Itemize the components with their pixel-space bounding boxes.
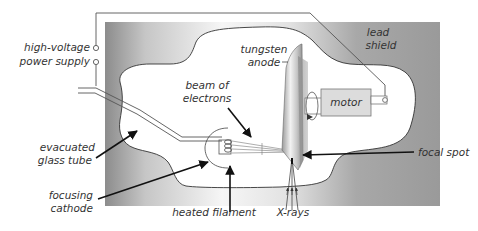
label-high-voltage-1: high-voltage xyxy=(24,41,90,53)
label-beam-2: electrons xyxy=(183,92,232,104)
motor-label: motor xyxy=(330,96,362,108)
label-evacuated-1: evacuated xyxy=(40,141,96,153)
label-focusing-2: cathode xyxy=(50,202,93,214)
label-xrays: X-rays xyxy=(276,206,310,218)
hv-terminal-top xyxy=(93,45,98,50)
label-lead-shield-1: lead xyxy=(367,26,390,38)
label-high-voltage-2: power supply xyxy=(19,55,91,67)
label-tungsten-1: tungsten xyxy=(241,43,288,55)
anode-shaft xyxy=(305,98,323,114)
label-focal-spot: focal spot xyxy=(418,146,470,158)
label-lead-shield-2: shield xyxy=(365,39,396,51)
label-tungsten-2: anode xyxy=(248,56,281,68)
xray-tube-diagram: motor high-voltage power supply lead shi… xyxy=(0,0,478,231)
label-evacuated-2: glass tube xyxy=(38,154,92,166)
label-focusing-1: focusing xyxy=(49,189,94,201)
label-heated-filament: heated filament xyxy=(172,206,257,218)
hv-terminal-bottom xyxy=(93,59,98,64)
motor-terminal xyxy=(383,98,388,103)
label-beam-1: beam of xyxy=(185,79,231,91)
